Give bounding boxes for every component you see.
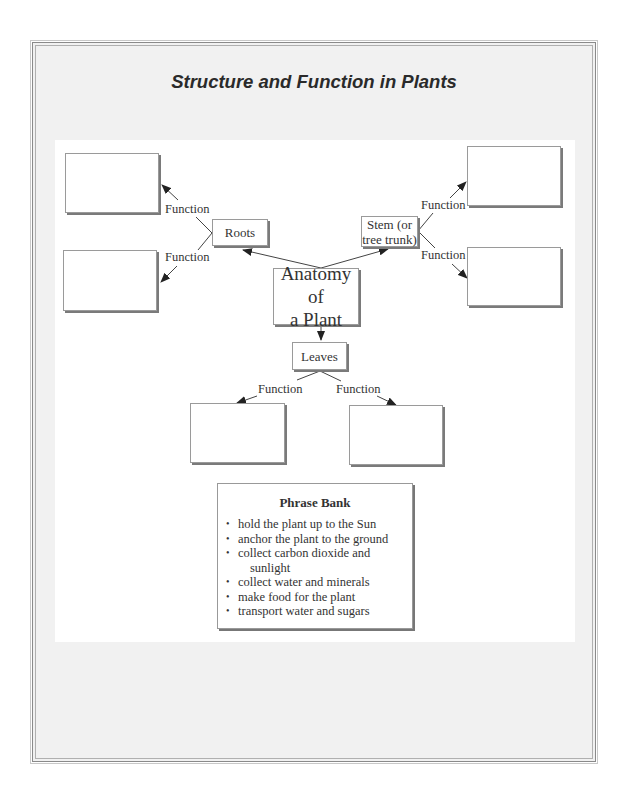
answer-box-leaves-function-2[interactable]: [349, 405, 443, 465]
phrase-bank-item: make food for the plant: [226, 590, 412, 605]
phrase-bank-item: collect water and minerals: [226, 575, 412, 590]
node-stem: Stem (or tree trunk): [361, 216, 418, 247]
phrase-bank-item: anchor the plant to the ground: [226, 532, 412, 547]
center-label-line2: a Plant: [290, 308, 342, 331]
page-title: Structure and Function in Plants: [0, 71, 628, 93]
phrase-bank-title: Phrase Bank: [218, 495, 412, 511]
answer-box-roots-function-2[interactable]: [63, 250, 157, 311]
function-label-roots-2: Function: [165, 250, 209, 265]
node-leaves-label: Leaves: [301, 349, 338, 364]
phrase-bank-item-text: collect carbon dioxide and: [238, 546, 370, 560]
phrase-bank: Phrase Bank hold the plant up to the Sun…: [217, 483, 413, 629]
phrase-bank-item-continuation: sunlight: [238, 561, 290, 575]
phrase-bank-list: hold the plant up to the Sun anchor the …: [218, 517, 412, 619]
node-stem-label-line1: Stem (or: [367, 217, 412, 232]
node-roots: Roots: [212, 219, 268, 246]
answer-box-stem-function-1[interactable]: [467, 146, 561, 206]
node-anatomy-of-a-plant: Anatomy of a Plant: [273, 268, 359, 325]
answer-box-leaves-function-1[interactable]: [190, 403, 285, 463]
phrase-bank-item: transport water and sugars: [226, 604, 412, 619]
node-roots-label: Roots: [225, 225, 255, 240]
function-label-roots-1: Function: [165, 202, 209, 217]
answer-box-stem-function-2[interactable]: [467, 247, 561, 306]
node-stem-label-line2: tree trunk): [362, 232, 417, 247]
phrase-bank-item: hold the plant up to the Sun: [226, 517, 412, 532]
function-label-leaves-1: Function: [258, 382, 302, 397]
node-leaves: Leaves: [292, 342, 347, 370]
center-label-line1: Anatomy of: [274, 262, 358, 308]
function-label-stem-2: Function: [421, 248, 465, 263]
phrase-bank-item: collect carbon dioxide andsunlight: [226, 546, 412, 575]
function-label-stem-1: Function: [421, 198, 465, 213]
answer-box-roots-function-1[interactable]: [65, 153, 159, 213]
function-label-leaves-2: Function: [336, 382, 380, 397]
